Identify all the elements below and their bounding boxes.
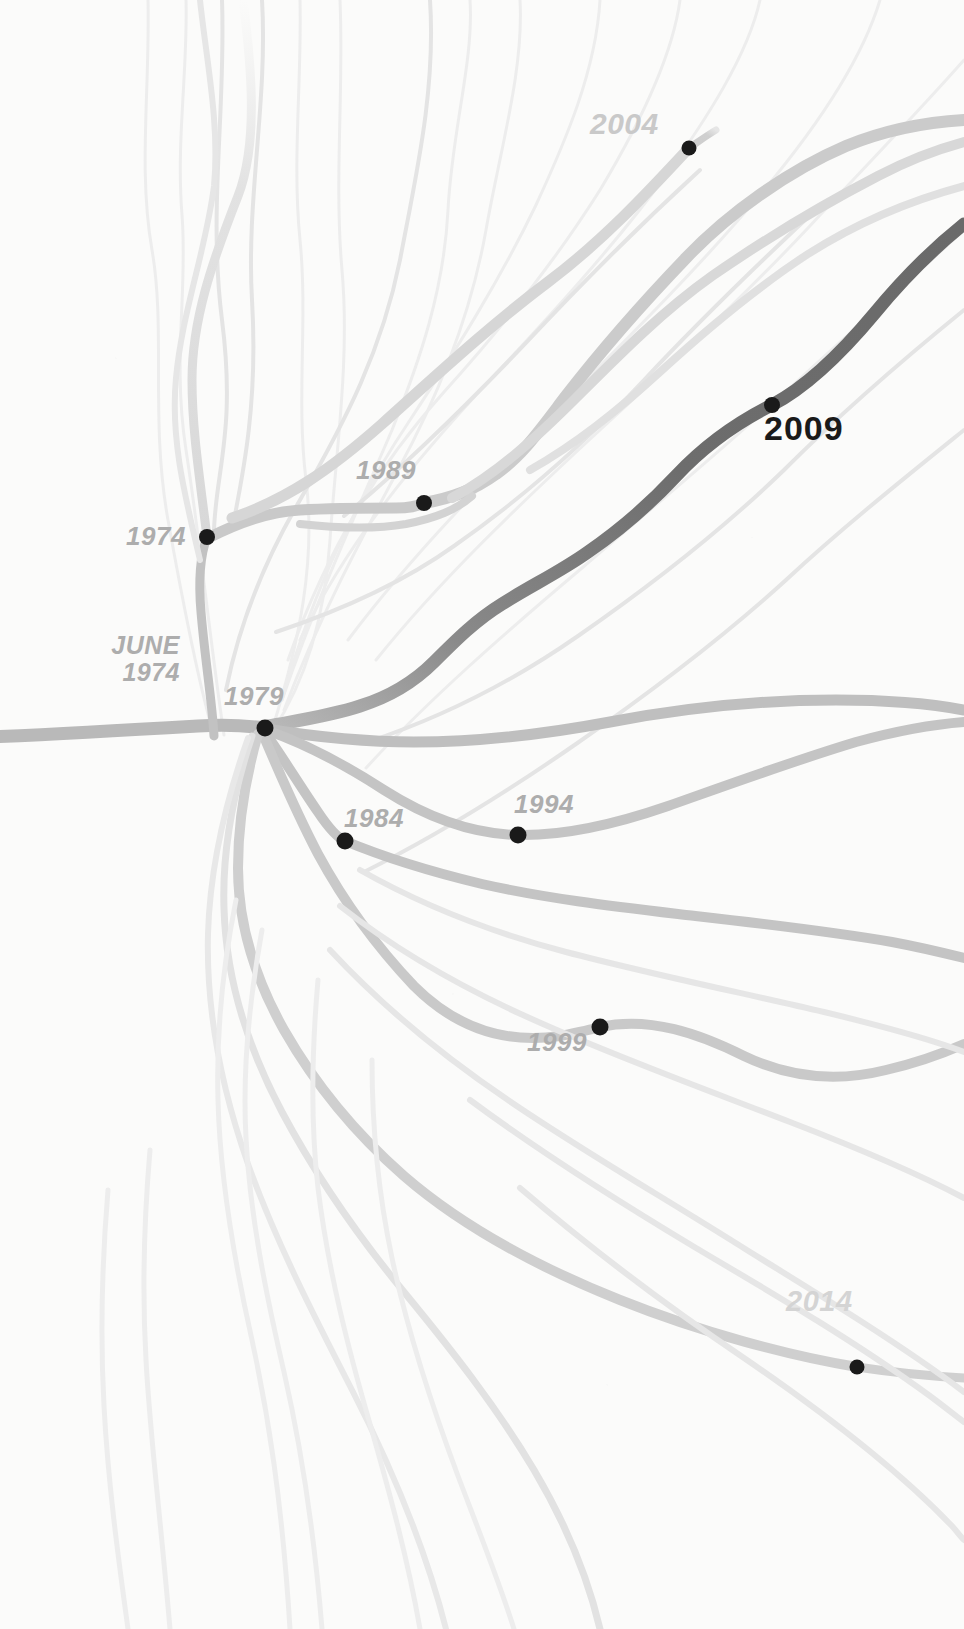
label-2009: 2009 (764, 410, 844, 447)
node-dot-1994 (510, 827, 527, 844)
node-dot-1984 (337, 833, 354, 850)
node-dot-1974 (199, 529, 215, 545)
node-dots (199, 141, 865, 1375)
node-dot-1979 (257, 720, 274, 737)
label-2004: 2004 (590, 108, 659, 140)
lower-faint-flows (330, 870, 964, 1540)
label-1984: 1984 (344, 804, 404, 832)
label-1974: 1974 (126, 522, 186, 550)
label-june-1974: JUNE 1974 (12, 632, 180, 686)
branch-2014-tail (857, 1367, 964, 1378)
node-dot-1989 (416, 495, 432, 511)
diagram-canvas: JUNE 1974 1974 1979 1984 1989 1994 1999 … (0, 0, 964, 1629)
label-1989: 1989 (356, 456, 416, 484)
label-2014: 2014 (786, 1286, 853, 1317)
label-1994: 1994 (514, 790, 574, 818)
label-june-1974-line1: JUNE (12, 632, 180, 659)
label-june-1974-line2: 1974 (12, 659, 180, 686)
label-1979: 1979 (224, 682, 284, 710)
label-1999: 1999 (527, 1028, 587, 1056)
bottom-ghost-strands (102, 900, 514, 1629)
branch-network (0, 0, 964, 1629)
node-dot-2014 (850, 1360, 865, 1375)
node-dot-2004 (682, 141, 697, 156)
node-dot-1999 (592, 1019, 609, 1036)
